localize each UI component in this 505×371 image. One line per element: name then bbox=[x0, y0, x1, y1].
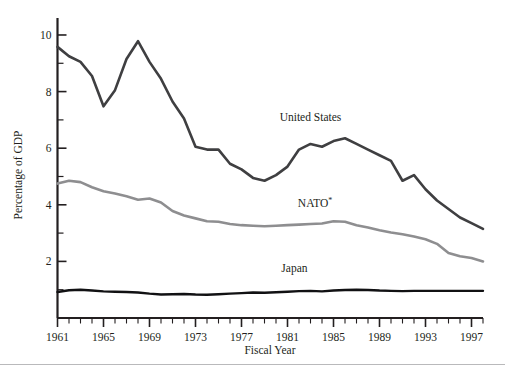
x-tick-label: 1993 bbox=[414, 331, 437, 343]
y-axis-title: Percentage of GDP bbox=[12, 131, 25, 220]
y-tick-label: 4 bbox=[46, 199, 52, 211]
x-axis-title: Fiscal Year bbox=[244, 344, 295, 356]
y-tick-label: 6 bbox=[46, 142, 52, 154]
x-tick-label: 1981 bbox=[276, 331, 299, 343]
x-tick-label: 1989 bbox=[368, 331, 391, 343]
x-tick-label: 1965 bbox=[92, 331, 115, 343]
series-label-japan: Japan bbox=[281, 262, 307, 275]
chart-background bbox=[0, 0, 505, 371]
series-label-nato: NATO* bbox=[298, 196, 332, 209]
series-label-united-states: United States bbox=[280, 111, 342, 123]
x-tick-label: 1977 bbox=[230, 331, 253, 343]
series-label-nato-text: NATO bbox=[298, 197, 328, 209]
chart-figure: 246810 196119651969197319771981198519891… bbox=[0, 0, 505, 371]
defense-spending-line-chart: 246810 196119651969197319771981198519891… bbox=[0, 0, 505, 371]
nato-footnote-asterisk: * bbox=[328, 196, 332, 205]
x-tick-label: 1969 bbox=[138, 331, 161, 343]
y-tick-label: 2 bbox=[46, 255, 52, 267]
x-tick-label: 1961 bbox=[46, 331, 69, 343]
x-tick-label: 1997 bbox=[460, 331, 483, 343]
x-tick-label: 1973 bbox=[184, 331, 207, 343]
y-tick-label: 10 bbox=[40, 29, 52, 41]
y-tick-label: 8 bbox=[46, 86, 52, 98]
x-tick-label: 1985 bbox=[322, 331, 345, 343]
